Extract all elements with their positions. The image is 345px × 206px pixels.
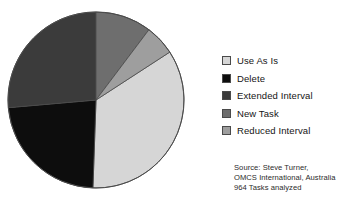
pie-chart-figure: Use As Is Delete Extended Interval New T… — [0, 0, 345, 206]
pie-chart-plot-area — [6, 9, 188, 191]
pie-slice[interactable] — [8, 12, 96, 108]
legend-swatch-extended-interval — [222, 91, 231, 100]
legend-item-reduced-interval[interactable]: Reduced Interval — [222, 122, 342, 140]
legend-swatch-reduced-interval — [222, 126, 231, 135]
chart-legend: Use As Is Delete Extended Interval New T… — [222, 52, 342, 140]
source-line-2: OMCS International, Australia — [234, 173, 344, 183]
legend-swatch-new-task — [222, 109, 231, 118]
legend-label-reduced-interval: Reduced Interval — [237, 125, 310, 136]
legend-label-use-as-is: Use As Is — [237, 55, 278, 66]
legend-item-new-task[interactable]: New Task — [222, 105, 342, 123]
legend-label-delete: Delete — [237, 73, 265, 84]
source-line-1: Source: Steve Turner, — [234, 163, 344, 173]
pie-chart-svg — [6, 9, 188, 191]
pie-slice-group — [8, 12, 184, 188]
legend-swatch-use-as-is — [222, 56, 231, 65]
source-line-3: 964 Tasks analyzed — [234, 183, 344, 193]
legend-item-delete[interactable]: Delete — [222, 70, 342, 88]
legend-swatch-delete — [222, 74, 231, 83]
legend-label-extended-interval: Extended Interval — [237, 90, 313, 101]
legend-item-extended-interval[interactable]: Extended Interval — [222, 87, 342, 105]
pie-slice[interactable] — [8, 100, 96, 188]
legend-label-new-task: New Task — [237, 108, 279, 119]
source-note: Source: Steve Turner, OMCS International… — [234, 163, 344, 193]
legend-item-use-as-is[interactable]: Use As Is — [222, 52, 342, 70]
